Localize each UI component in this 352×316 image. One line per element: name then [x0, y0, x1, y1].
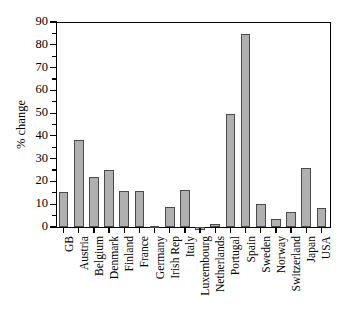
x-axis-tick [245, 228, 246, 233]
x-axis-tick [108, 228, 109, 233]
x-axis-label-text: Belgium [94, 236, 106, 276]
bars-layer [56, 22, 329, 227]
x-axis-tick [78, 228, 79, 233]
bar-chart: % change 0102030405060708090 GBAustriaBe… [0, 0, 352, 316]
x-axis-label-text: USA [321, 236, 333, 259]
bar-norway [271, 219, 281, 227]
bar-finland [119, 191, 129, 227]
bar-belgium [89, 177, 99, 227]
bar-netherlands [210, 224, 220, 227]
y-axis-tick-label: 0 [8, 220, 48, 232]
y-axis-tick-label: 10 [8, 197, 48, 209]
y-axis-tick-label: 60 [8, 83, 48, 95]
y-axis-tick-label: 30 [8, 152, 48, 164]
y-axis-tick-label: 70 [8, 61, 48, 73]
y-axis-tick-label: 20 [8, 174, 48, 186]
x-axis-tick [139, 228, 140, 233]
x-axis-label-text: Netherlands [215, 236, 227, 292]
x-axis-label-text: Switzerland [291, 236, 303, 291]
x-axis-line [56, 227, 330, 228]
x-axis-tick [275, 228, 276, 233]
x-axis-label-text: Finland [124, 236, 136, 271]
x-axis-label-text: Sweden [261, 236, 273, 273]
bar-japan [301, 168, 311, 227]
x-axis-label-text: Norway [276, 236, 288, 273]
bar-gb [59, 192, 69, 227]
bar-usa [317, 208, 327, 227]
bar-austria [74, 140, 84, 227]
x-axis-tick [184, 228, 185, 233]
x-axis-tick [230, 228, 231, 233]
bar-denmark [104, 170, 114, 227]
bar-irish-rep [165, 207, 175, 227]
x-axis-label-text: Denmark [109, 236, 121, 279]
x-axis-tick [215, 228, 216, 233]
bar-sweden [256, 204, 266, 227]
x-axis-label-text: GB [64, 236, 76, 252]
x-axis-tick [124, 228, 125, 233]
x-axis-label-text: Spain [246, 236, 258, 262]
x-axis-tick [93, 228, 94, 233]
x-axis-label-text: Irish Rep [170, 236, 182, 279]
y-axis-tick-label: 90 [8, 15, 48, 27]
x-axis-tick [199, 228, 200, 233]
y-axis-tick-label: 40 [8, 129, 48, 141]
bar-france [135, 191, 145, 227]
y-axis-tick-label: 50 [8, 106, 48, 118]
x-axis-label-text: Germany [155, 236, 167, 279]
x-axis-tick [169, 228, 170, 233]
x-axis-label-text: Italy [185, 236, 197, 257]
x-axis-tick [63, 228, 64, 233]
x-axis-label-text: Portugal [230, 236, 242, 275]
bar-portugal [226, 114, 236, 227]
x-axis-tick [290, 228, 291, 233]
x-axis-label-text: Japan [306, 236, 318, 262]
bar-spain [241, 34, 251, 227]
x-axis-label-text: Luxembourg [200, 236, 212, 296]
x-axis-label-text: France [139, 236, 151, 268]
x-axis-label-text: Austria [79, 236, 91, 270]
x-axis-tick [260, 228, 261, 233]
bar-switzerland [286, 212, 296, 227]
x-axis-tick [306, 228, 307, 233]
x-axis-tick [154, 228, 155, 233]
x-axis-tick [321, 228, 322, 233]
y-axis-tick-label: 80 [8, 38, 48, 50]
bar-italy [180, 190, 190, 227]
